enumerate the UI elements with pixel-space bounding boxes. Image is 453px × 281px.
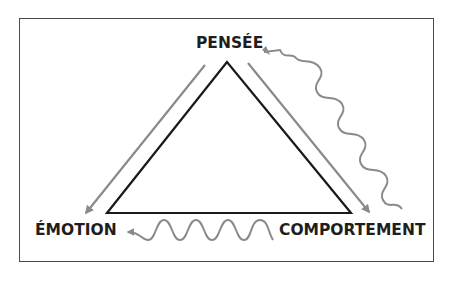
wavy-arrow-comportement-to-emotion [128, 220, 273, 240]
node-label-pensee: PENSÉE [196, 34, 263, 52]
arrow-pensee-to-comportement [248, 63, 369, 212]
triangle-shape [107, 62, 351, 213]
arrow-pensee-to-emotion [86, 65, 205, 213]
wavy-arrow-comportement-to-pensee [264, 50, 402, 209]
node-label-comportement: COMPORTEMENT [279, 221, 425, 239]
node-label-emotion: ÉMOTION [35, 221, 117, 239]
